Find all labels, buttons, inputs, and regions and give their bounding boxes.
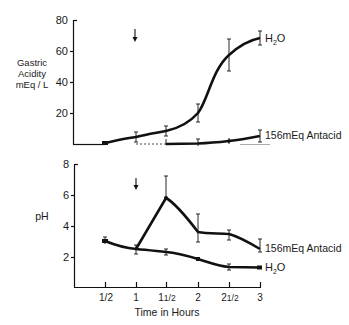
top-antacid-line [166,136,260,144]
bottom-h2o-marker-start [102,239,108,243]
top-ytick-80: 80 [56,14,68,26]
bottom-panel: pH 8 6 4 2 1/2 1 11/2 2 21/2 3 Ti [35,158,341,318]
top-ytick-40: 40 [56,76,68,88]
xtick-1: 1 [133,292,139,303]
xtick-1-half: 11/2 [158,292,176,303]
bottom-ytick-2: 2 [63,251,69,263]
top-h2o-line [105,38,260,143]
bottom-h2o-error-bars [103,237,231,270]
xtick-3: 3 [257,292,263,303]
bottom-h2o-marker-2h [196,257,200,261]
bottom-h2o-marker-end [257,266,262,270]
top-antacid-label: 156mEq Antacid [265,129,342,141]
top-dose-arrow-icon [133,29,138,42]
top-panel: Gastric Acidity mEq / L 80 60 40 20 [16,14,342,146]
x-axis-label: Time in Hours [135,306,200,318]
bottom-dose-arrow-icon [134,178,139,190]
top-antacid-marker [227,139,231,143]
top-ylabel-line2: Acidity [18,68,46,79]
xtick-half: 1/2 [99,292,113,303]
bottom-x-ticks [106,282,261,288]
top-h2o-label: H2O [265,32,286,46]
bottom-ylabel: pH [35,210,48,222]
top-ylabel-line1: Gastric [17,57,47,68]
bottom-h2o-label: H2O [265,261,286,275]
top-ytick-20: 20 [56,107,68,119]
top-ylabel-line3: mEq / L [16,79,49,90]
bottom-ytick-6: 6 [63,189,69,201]
top-ytick-60: 60 [56,45,68,57]
bottom-ytick-4: 4 [63,220,69,232]
bottom-ytick-8: 8 [63,158,69,170]
xtick-2: 2 [195,292,201,303]
top-h2o-error-bars [134,31,262,142]
xtick-2-half: 21/2 [221,292,239,303]
top-h2o-marker [102,141,108,145]
figure: Gastric Acidity mEq / L 80 60 40 20 [0,0,349,325]
bottom-antacid-label: 156mEq Antacid [265,242,342,254]
bottom-h2o-line [105,241,260,268]
bottom-antacid-peak-marker [164,196,168,200]
